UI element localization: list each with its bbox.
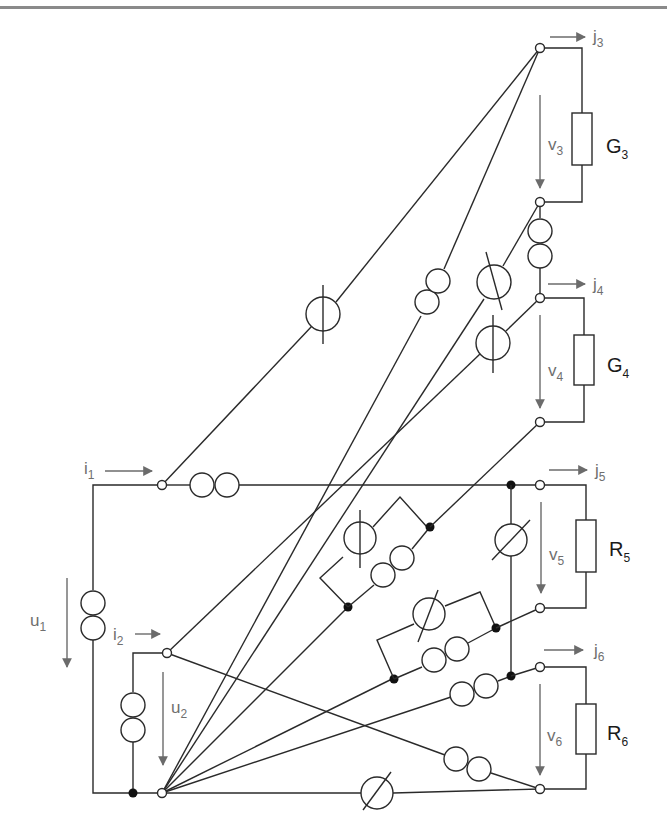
label-j5: j5 [594,461,606,484]
node-ground [158,789,167,798]
label-u2: u2 [171,698,187,721]
double-circle-u2-icon [121,693,145,717]
node-C [536,294,545,303]
label-j6: j6 [593,641,605,664]
node-E [536,481,545,490]
current-arrows [105,37,587,650]
label-i1: i1 [84,459,95,482]
node-B [536,198,545,207]
input-port-2 [121,653,167,793]
label-R5: R5 [609,538,630,565]
voltage-arrows [67,95,541,775]
node-A [536,44,545,53]
label-u1: u1 [30,611,46,634]
label-v5: v5 [549,545,565,568]
circuit-diagram: i1 i2 u1 u2 j3 j4 j5 j6 v3 v4 v5 v6 G3 G… [0,0,667,839]
label-v4: v4 [548,361,564,384]
node-i2 [163,649,172,658]
resistor-G3-icon [572,113,592,165]
port-3-branch [540,48,592,202]
label-i2: i2 [113,625,124,648]
label-j3: j3 [592,27,604,50]
i1-to-A-branch [162,48,540,485]
label-v6: v6 [547,726,563,749]
label-j4: j4 [592,275,604,298]
node-G [536,663,545,672]
label-v3: v3 [548,135,564,158]
node-F [536,604,545,613]
label-R6: R6 [607,722,628,749]
double-circle-u1-icon [81,591,105,615]
node-H [536,785,545,794]
label-G3: G3 [606,135,629,162]
resistor-G4-icon [574,335,594,385]
resistor-R6-icon [576,704,596,754]
i2-to-H-branch [167,653,540,789]
label-G4: G4 [607,354,630,381]
node-i1 [158,481,167,490]
resistor-R5-icon [576,520,596,572]
vertical-slash-branch [492,481,530,673]
port-4-branch [540,298,594,422]
node-D [536,418,545,427]
junction-dot [129,789,138,798]
circle-slash-bottom-icon [361,777,393,809]
O-to-B-branch [162,202,540,793]
